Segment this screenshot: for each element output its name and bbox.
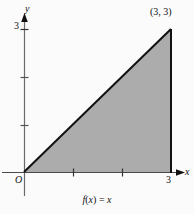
plot-canvas [0,0,194,214]
caption-equals: = [96,194,107,205]
x-axis-label: x [185,167,189,177]
origin-label: O [15,175,22,185]
vertex-point-label: (3, 3) [150,7,172,17]
x-tick-label-3: 3 [166,175,171,185]
y-axis-label: y [25,4,29,14]
y-tick-label-3: 3 [14,21,19,31]
x-axis-arrow-icon [176,169,185,176]
y-axis-arrow-icon [21,13,28,22]
figure-caption: f(x) = x [0,194,194,205]
figure-container: y x 3 3 O (3, 3) f(x) = x [0,0,194,214]
caption-var-x2: x [107,194,111,205]
